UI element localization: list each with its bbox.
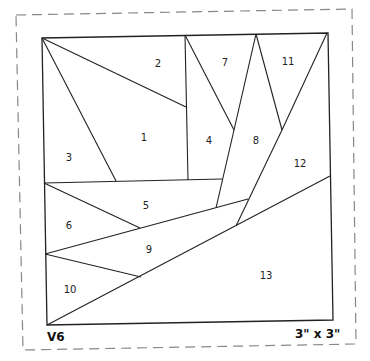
seam-line [185,35,234,130]
seam-line [44,183,140,228]
piece-label-8: 8 [253,135,259,146]
piece-label-1: 1 [141,132,147,143]
size-label: 3" x 3" [295,327,340,341]
piece-label-3: 3 [66,152,72,163]
piece-label-4: 4 [206,135,212,146]
piece-label-6: 6 [66,220,72,231]
piece-label-9: 9 [146,244,152,255]
seam-line [216,130,234,208]
piece-label-2: 2 [155,58,161,69]
piece-label-13: 13 [260,270,273,281]
seam-line [47,176,330,325]
seam-line [42,38,186,107]
seam-line [256,34,282,130]
piece-label-12: 12 [294,158,307,169]
piece-label-10: 10 [64,284,77,295]
foundation-pattern: 1 2 3 4 5 6 7 8 9 10 11 12 13 V6 3" x 3" [0,0,370,361]
piece-label-5: 5 [143,200,149,211]
seam-line [45,254,141,277]
seam-line [234,34,256,130]
seam-line [282,33,327,130]
seam-line [42,38,116,181]
seam-line [44,179,222,183]
pattern-lines [0,0,370,361]
version-label: V6 [47,330,65,344]
piece-label-7: 7 [222,57,228,68]
seam-line [185,35,188,180]
piece-label-11: 11 [282,56,295,67]
